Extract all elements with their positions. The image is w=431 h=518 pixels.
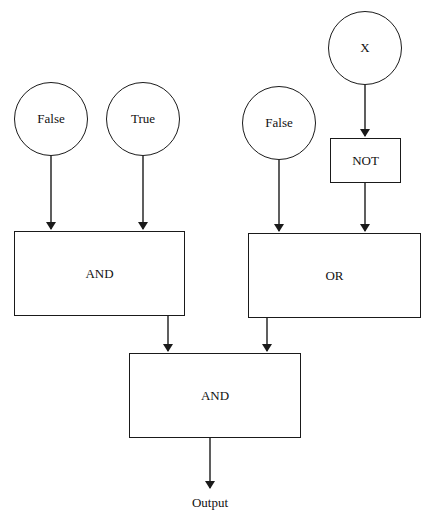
input-node-x: X xyxy=(328,11,402,85)
input-label: False xyxy=(265,115,292,131)
input-node-false-2: False xyxy=(242,86,316,160)
gate-or: OR xyxy=(248,233,421,318)
gate-label: NOT xyxy=(352,153,379,169)
input-label: True xyxy=(131,111,155,127)
gate-and-2: AND xyxy=(129,353,301,438)
gate-and-1: AND xyxy=(14,231,185,316)
input-label: X xyxy=(360,40,369,56)
gate-label: AND xyxy=(85,266,113,282)
gate-label: OR xyxy=(325,268,343,284)
input-node-false-1: False xyxy=(14,82,88,156)
gate-label: AND xyxy=(201,388,229,404)
input-node-true: True xyxy=(106,82,180,156)
input-label: False xyxy=(37,111,64,127)
gate-not: NOT xyxy=(330,138,401,183)
output-label: Output xyxy=(186,495,234,511)
